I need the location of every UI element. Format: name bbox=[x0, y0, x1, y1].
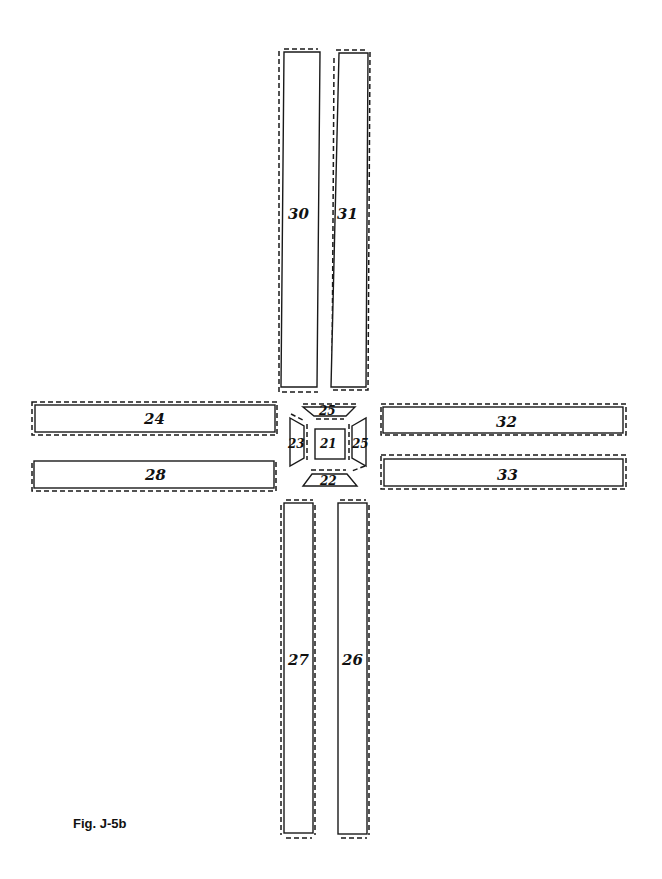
piece-label: 25 bbox=[318, 404, 336, 418]
piece-21: 21 bbox=[315, 429, 345, 459]
piece-28: 28 bbox=[32, 461, 276, 491]
piece-label: 27 bbox=[287, 651, 309, 669]
piece-30: 30 bbox=[279, 49, 320, 392]
piece-33: 33 bbox=[381, 455, 626, 489]
piece-label: 23 bbox=[287, 437, 305, 451]
piece-label: 31 bbox=[337, 205, 358, 223]
pattern-diagram: 30 31 24 28 32 33 25 23 bbox=[0, 0, 662, 879]
piece-32: 32 bbox=[381, 404, 626, 435]
piece-24: 25 bbox=[303, 404, 357, 419]
piece-label: 32 bbox=[496, 413, 517, 431]
piece-label: 28 bbox=[144, 466, 166, 484]
piece-31: 31 bbox=[331, 50, 370, 390]
piece-27: 27 bbox=[281, 500, 315, 838]
piece-label: 21 bbox=[319, 437, 337, 451]
piece-label: 26 bbox=[341, 651, 363, 669]
piece-label: 22 bbox=[319, 474, 337, 488]
piece-label: 33 bbox=[497, 466, 518, 484]
piece-label: 30 bbox=[288, 205, 309, 223]
piece-22: 22 bbox=[303, 470, 357, 488]
piece-23: 23 bbox=[287, 414, 307, 466]
piece-label: 24 bbox=[143, 410, 165, 428]
piece-25: 25 bbox=[349, 418, 369, 471]
piece-label: 25 bbox=[351, 437, 369, 451]
figure-caption: Fig. J-5b bbox=[73, 816, 126, 831]
piece-26: 26 bbox=[338, 500, 369, 838]
piece-29: 24 bbox=[32, 402, 277, 435]
